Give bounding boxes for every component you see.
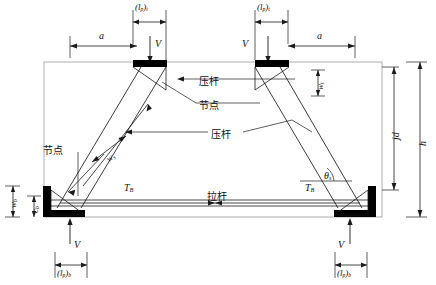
force-label-V-top-left: V <box>155 38 161 49</box>
annotation-node-left: 节点 <box>43 142 63 157</box>
annotation-tension-tie: 拉杆 <box>207 188 227 203</box>
angle-label-theta-s: θs <box>324 170 331 181</box>
force-label-V-top-right: V <box>242 38 248 49</box>
annotation-compression-strut-middle: 压杆 <box>211 126 231 141</box>
dimension-label-w-t: wt <box>315 82 325 90</box>
dimension-label-lp-t-top-right: (lp)t <box>257 2 270 12</box>
diagram-geometry <box>0 0 436 285</box>
annotation-compression-strut-top: 压杆 <box>199 73 219 88</box>
dimension-label-lp-t-top-left: (lp)t <box>135 2 148 12</box>
dimension-label-lp-b-bottom-right: (lp)b <box>337 268 351 278</box>
dimension-label-a-left: a <box>99 30 104 41</box>
dimension-label-a-right: a <box>317 30 322 41</box>
force-label-TB-right: TB <box>305 182 314 193</box>
dimension-label-lp-b-bottom-left: (lp)b <box>57 268 71 278</box>
force-label-TB-left: TB <box>124 182 133 193</box>
force-label-V-bottom-left: V <box>74 239 80 250</box>
dimension-label-c-b: cb <box>30 206 40 213</box>
dimension-label-w-b: wb <box>8 199 18 208</box>
dimension-label-jd: jd <box>390 132 401 140</box>
dimension-label-h: h <box>417 141 428 146</box>
annotation-node-top: 节点 <box>199 97 219 112</box>
figure-canvas: (lp)t (lp)t a a V V V V (lp)b (lp)b TB T… <box>0 0 436 285</box>
force-label-V-bottom-right: V <box>338 239 344 250</box>
